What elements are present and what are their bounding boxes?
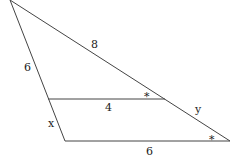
hypotenuse-line	[10, 0, 230, 141]
label-x: x	[48, 117, 55, 130]
left-side-line	[10, 0, 65, 141]
similar-triangles-diagram: 6 8 4 x y 6 * *	[0, 0, 232, 156]
angle-mark-top: *	[144, 90, 150, 103]
label-hyp-8: 8	[91, 38, 98, 51]
label-mid-4: 4	[105, 101, 112, 114]
label-y: y	[194, 103, 202, 116]
label-left-6: 6	[24, 61, 31, 74]
angle-mark-bottom: *	[209, 133, 215, 146]
label-base-6: 6	[146, 145, 153, 156]
